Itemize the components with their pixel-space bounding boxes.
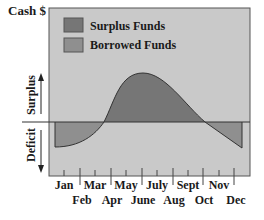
legend-label-surplus: Surplus Funds bbox=[90, 19, 165, 33]
month-label: June bbox=[131, 193, 156, 207]
month-label: Aug bbox=[163, 193, 184, 207]
month-label: Dec bbox=[226, 193, 246, 207]
month-label: May bbox=[114, 178, 137, 192]
arrow-up-icon bbox=[38, 73, 44, 81]
month-label: Nov bbox=[209, 178, 230, 192]
month-label: Jan bbox=[55, 178, 74, 192]
x-tick-labels: Jan Mar May July Sept Nov Feb Apr June A… bbox=[55, 178, 247, 207]
legend-swatch-surplus bbox=[64, 18, 83, 32]
month-label: Sept bbox=[177, 178, 200, 192]
legend-swatch-borrowed bbox=[64, 38, 83, 52]
month-label: Apr bbox=[102, 193, 123, 207]
month-label: July bbox=[146, 178, 168, 192]
deficit-label: Deficit bbox=[24, 128, 38, 162]
month-label: Feb bbox=[72, 193, 92, 207]
month-label: Mar bbox=[84, 178, 107, 192]
legend-label-borrowed: Borrowed Funds bbox=[90, 38, 176, 52]
month-label: Oct bbox=[195, 193, 214, 207]
cash-flow-chart: Surplus Funds Borrowed Funds Surplus Def… bbox=[0, 0, 264, 220]
surplus-label: Surplus bbox=[24, 75, 38, 115]
arrow-down-icon bbox=[38, 165, 44, 173]
